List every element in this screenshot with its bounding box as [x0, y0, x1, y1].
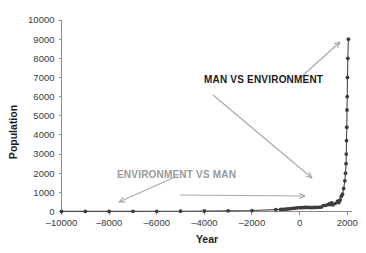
- y-tick-label: 4000: [33, 129, 54, 140]
- data-point: [338, 198, 342, 202]
- data-point: [347, 37, 351, 41]
- data-point: [346, 56, 350, 60]
- data-point: [343, 179, 347, 183]
- y-tick-label: 9000: [33, 34, 54, 45]
- y-axis-title: Population: [7, 105, 19, 159]
- series-line: [62, 39, 349, 211]
- x-tick-label: 0: [297, 217, 302, 228]
- data-point: [107, 210, 111, 214]
- data-point: [250, 209, 254, 213]
- series-markers: [60, 37, 351, 213]
- x-tick-label: –2000: [239, 217, 265, 228]
- data-point: [345, 125, 349, 129]
- data-point: [345, 108, 349, 112]
- data-point: [341, 192, 345, 196]
- x-tick-label: –6000: [144, 217, 170, 228]
- arrow-down-right: [213, 95, 312, 178]
- y-tick-label: 6000: [33, 91, 54, 102]
- y-tick-label: 2000: [33, 168, 54, 179]
- data-point: [344, 162, 348, 166]
- y-tick-label: 7000: [33, 72, 54, 83]
- y-tick-labels: 0100020003000400050006000700080009000100…: [28, 14, 54, 217]
- x-tick-label: –10000: [46, 217, 78, 228]
- data-point: [226, 209, 230, 213]
- x-tick-label: –4000: [191, 217, 217, 228]
- arrow-left-down: [119, 177, 175, 202]
- data-point: [179, 209, 183, 213]
- data-point: [345, 95, 349, 99]
- y-axis-group: 0100020003000400050006000700080009000100…: [28, 14, 61, 217]
- data-point: [344, 171, 348, 175]
- x-tick-label: –8000: [96, 217, 122, 228]
- annotation-environment-vs-man: ENVIRONMENT VS MAN: [117, 169, 236, 180]
- data-point: [342, 187, 346, 191]
- data-point: [202, 209, 206, 213]
- population-chart: 0100020003000400050006000700080009000100…: [0, 0, 366, 253]
- data-point: [274, 208, 278, 212]
- annotation-man-vs-environment: MAN VS ENVIRONMENT: [204, 74, 323, 85]
- arrow-right-flat: [180, 193, 305, 198]
- chart-canvas: 0100020003000400050006000700080009000100…: [0, 0, 366, 253]
- x-axis-group: –10000–8000–6000–4000–200002000: [46, 212, 358, 228]
- y-tick-label: 5000: [33, 110, 54, 121]
- data-point: [155, 209, 159, 213]
- data-point: [346, 76, 350, 80]
- data-point: [83, 210, 87, 214]
- data-point: [60, 210, 64, 214]
- y-tick-label: 1000: [33, 187, 54, 198]
- y-tick-label: 8000: [33, 53, 54, 64]
- y-tick-label: 0: [49, 206, 54, 217]
- arrow-up-right: [300, 42, 340, 78]
- data-point: [344, 152, 348, 156]
- y-tick-label: 3000: [33, 148, 54, 159]
- y-tick-label: 10000: [28, 14, 54, 25]
- x-axis-title: Year: [196, 233, 218, 245]
- x-tick-label: 2000: [337, 217, 358, 228]
- data-point: [131, 209, 135, 213]
- data-point: [345, 139, 349, 143]
- data-series-world-population: [60, 37, 351, 213]
- x-tick-labels: –10000–8000–6000–4000–200002000: [46, 217, 358, 228]
